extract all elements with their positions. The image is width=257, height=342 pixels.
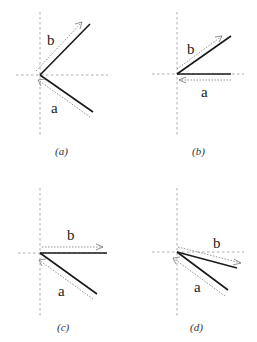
vector-diagram: b a (a) b a (b) b a (c)	[0, 0, 257, 342]
label-b: b	[187, 41, 195, 57]
caption-a: (a)	[55, 145, 68, 158]
label-b: b	[47, 32, 55, 48]
dotted-arrow-a	[39, 260, 93, 299]
panel-b: b a (b)	[152, 12, 244, 158]
label-a: a	[51, 100, 58, 116]
vector-a	[40, 75, 93, 112]
arrowhead-b-icon	[75, 22, 82, 29]
dotted-arrow-b	[36, 22, 82, 71]
caption-d: (d)	[190, 321, 203, 334]
label-a: a	[58, 283, 65, 299]
caption-c: (c)	[57, 321, 70, 334]
panel-a: b a (a)	[16, 12, 108, 158]
caption-b: (b)	[192, 145, 205, 158]
panel-c: b a (c)	[18, 188, 107, 334]
vector-a	[40, 253, 97, 294]
dotted-arrow-a	[38, 80, 90, 117]
arrowhead-a-icon	[38, 79, 45, 86]
label-a: a	[194, 279, 201, 295]
panel-d: b a (d)	[152, 188, 244, 334]
vector-b	[177, 36, 231, 74]
label-b: b	[67, 227, 75, 243]
dotted-arrow-b	[177, 36, 222, 69]
label-a: a	[201, 84, 208, 100]
label-b: b	[213, 235, 221, 251]
vector-a	[177, 252, 228, 290]
